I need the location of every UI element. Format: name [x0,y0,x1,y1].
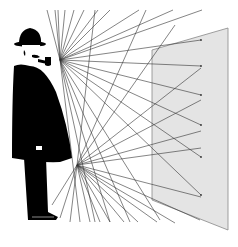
illustration-svg [0,0,238,247]
illustration-canvas [0,0,238,247]
mirror-panel [152,28,228,230]
